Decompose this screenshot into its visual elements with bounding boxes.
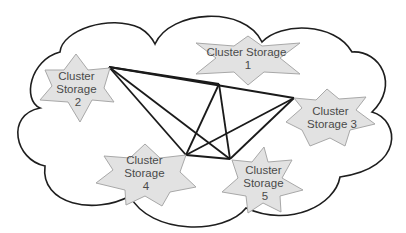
cluster-storage-diagram: Cluster Storage 1 Cluster Storage 2 Clus… [0, 0, 406, 233]
node-label: Cluster Storage 3 [307, 105, 357, 130]
